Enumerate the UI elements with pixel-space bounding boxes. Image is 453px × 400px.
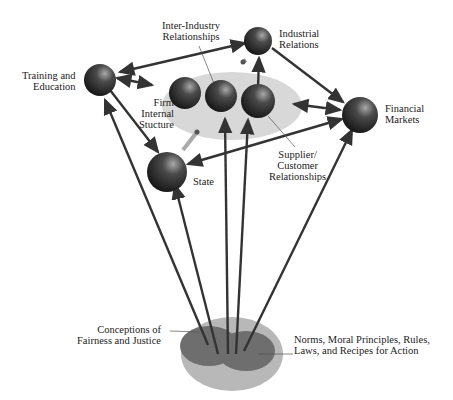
node-state xyxy=(147,152,187,192)
node-supplier xyxy=(241,84,275,118)
label-fairness: Conceptions of Fairness and Justice xyxy=(77,324,161,346)
label-state: State xyxy=(193,176,214,187)
label-industrial: Industrial Relations xyxy=(279,28,319,50)
institutional-diagram: Training and Education Inter-Industry Re… xyxy=(0,0,453,400)
label-firm: Firm Internal Stucture xyxy=(139,97,174,130)
label-norms: Norms, Moral Principles, Rules, Laws, an… xyxy=(294,334,430,356)
label-financial: Financial Markets xyxy=(385,103,424,125)
node-training xyxy=(84,64,116,96)
label-training: Training and Education xyxy=(22,70,76,92)
node-financial xyxy=(342,97,378,133)
node-inter-industry xyxy=(205,80,237,112)
label-inter-industry: Inter-Industry Relationships xyxy=(162,20,220,42)
node-industrial xyxy=(244,27,272,55)
label-supplier: Supplier/ Customer Relationships xyxy=(269,149,326,182)
